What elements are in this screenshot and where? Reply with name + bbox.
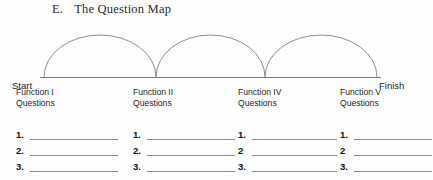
answer-number: 2. [133,145,146,156]
answer-write-line[interactable] [30,145,118,156]
answer-row: 1. [16,124,118,140]
question-map-diagram: Start Finish [0,14,433,82]
answer-number: 3. [133,161,146,172]
answer-row: 3. [238,156,337,172]
answer-write-line[interactable] [252,161,337,172]
column-header-function-iv: Function IV Questions [238,87,281,108]
answer-row: 2. [16,140,118,156]
answer-write-line[interactable] [252,145,337,156]
column-header-sublabel: Questions [340,98,381,109]
column-header-function-i: Function I Questions [16,87,55,108]
answer-number: 1. [340,129,353,140]
answer-number: 3. [238,161,251,172]
column-header-label: Function V [340,87,381,97]
answer-write-line[interactable] [30,129,118,140]
answer-row: 1. [133,124,235,140]
column-header-label: Function II [133,87,173,97]
column-header-sublabel: Questions [238,98,281,109]
answer-number: 1. [238,129,251,140]
answer-row: 1. [238,124,337,140]
column-header-label: Function I [16,87,54,97]
column-header-sublabel: Questions [133,98,173,109]
answer-write-line[interactable] [354,161,432,172]
column-header-function-ii: Function II Questions [133,87,173,108]
answer-write-line[interactable] [147,129,235,140]
answer-write-line[interactable] [354,145,432,156]
answer-write-line[interactable] [354,129,432,140]
answer-column-function-v: 1. 2 3. [340,124,432,172]
answer-number: 1. [16,129,29,140]
answer-number: 2 [238,145,251,156]
answer-column-function-i: 1. 2. 3. [16,124,118,172]
answer-row: 3. [133,156,235,172]
worksheet-page: E. The Question Map Start Finish Functio… [0,0,433,180]
answer-write-line[interactable] [147,145,235,156]
column-header-sublabel: Questions [16,98,55,109]
arc-2 [156,35,265,77]
arc-diagram-svg [0,14,433,82]
answer-column-function-ii: 1. 2. 3. [133,124,235,172]
answer-number: 3. [340,161,353,172]
answer-write-line[interactable] [147,161,235,172]
answer-number: 3. [16,161,29,172]
column-header-label: Function IV [238,87,281,97]
column-header-function-v: Function V Questions [340,87,381,108]
arc-1 [44,35,156,77]
answer-number: 1. [133,129,146,140]
answer-row: 1. [340,124,432,140]
answer-write-line[interactable] [252,129,337,140]
answer-row: 2 [238,140,337,156]
answer-number: 2. [16,145,29,156]
answer-row: 2 [340,140,432,156]
answer-write-line[interactable] [30,161,118,172]
arc-3 [265,35,377,77]
answer-number: 2 [340,145,353,156]
answer-row: 3. [340,156,432,172]
column-headers: Function I Questions Function II Questio… [0,87,433,113]
answer-columns: 1. 2. 3. 1. 2. 3. [0,124,433,180]
answer-row: 2. [133,140,235,156]
answer-column-function-iv: 1. 2 3. [238,124,337,172]
answer-row: 3. [16,156,118,172]
